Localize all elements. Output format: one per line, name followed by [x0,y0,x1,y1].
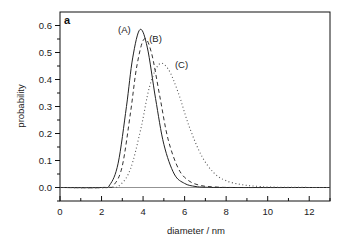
x-tick-label: 6 [182,206,187,217]
curve-label: (B) [149,33,162,44]
curves [60,29,330,187]
curve-label: (A) [118,24,131,35]
curve-b [60,39,330,188]
x-tick-label: 2 [99,206,104,217]
x-tick-label: 10 [262,206,273,217]
curve-a [60,29,330,187]
y-tick-label: 0.4 [39,74,52,85]
y-tick-label: 0.6 [39,20,52,31]
probability-chart: 0246810120.00.10.20.30.40.50.6 (A)(B)(C)… [0,0,346,251]
y-axis-title: probability [15,84,26,128]
y-tick-label: 0.3 [39,101,52,112]
y-tick-label: 0.0 [39,182,52,193]
panel-label: a [64,14,71,26]
y-tick-label: 0.1 [39,155,52,166]
curve-c [60,63,330,187]
curve-label: (C) [175,59,188,70]
x-axis-title: diameter / nm [167,225,225,236]
y-tick-label: 0.5 [39,47,52,58]
x-tick-label: 8 [224,206,229,217]
x-tick-label: 4 [140,206,145,217]
curve-labels: (A)(B)(C) [118,24,188,70]
y-tick-label: 0.2 [39,128,52,139]
x-tick-label: 0 [57,206,62,217]
x-tick-label: 12 [304,206,315,217]
plot-frame [60,12,330,201]
plot-border [60,12,330,201]
